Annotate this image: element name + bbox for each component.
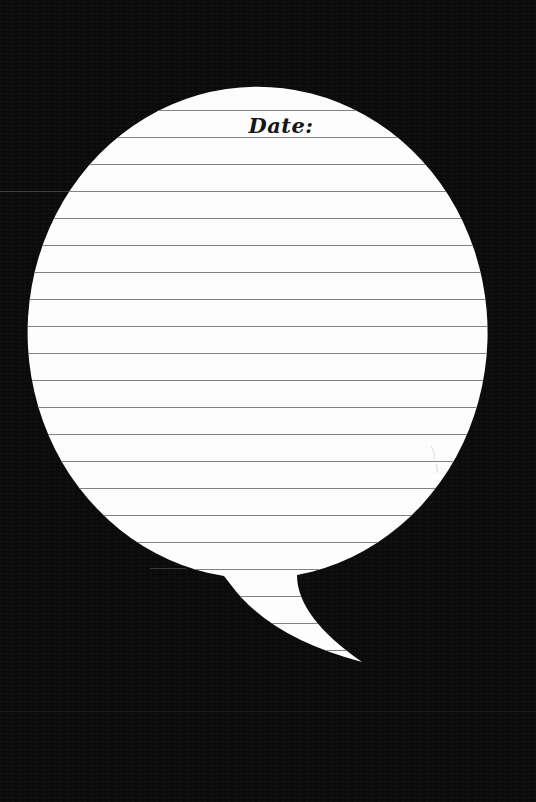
speech-bubble <box>28 87 488 662</box>
speech-bubble-page: Date: <box>0 0 536 802</box>
page-background: Date: <box>0 0 536 802</box>
date-label: Date: <box>247 113 313 138</box>
ruled-lines <box>0 111 536 651</box>
